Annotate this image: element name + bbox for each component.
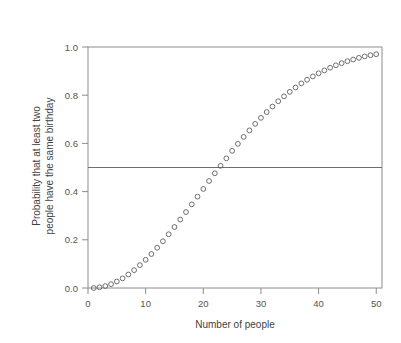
y-axis-tick-labels: 0.00.20.40.60.81.0 xyxy=(65,42,78,294)
data-point-marker xyxy=(299,81,304,86)
data-point-markers xyxy=(91,52,378,291)
data-point-marker xyxy=(178,217,183,222)
data-point-marker xyxy=(339,61,344,66)
x-tick-label: 10 xyxy=(140,298,151,309)
x-axis-ticks xyxy=(88,288,376,294)
data-point-marker xyxy=(207,179,212,184)
x-axis-tick-labels: 01020304050 xyxy=(85,298,381,309)
data-point-marker xyxy=(259,115,264,120)
data-point-marker xyxy=(357,55,362,60)
birthday-problem-chart: 01020304050 0.00.20.40.60.81.0 Number of… xyxy=(0,0,401,343)
data-point-marker xyxy=(120,276,125,281)
data-point-marker xyxy=(137,263,142,268)
data-point-marker xyxy=(172,225,177,230)
data-point-marker xyxy=(212,171,217,176)
data-point-marker xyxy=(132,268,137,273)
y-axis-title: Probability that at least two people hav… xyxy=(31,98,55,235)
data-point-marker xyxy=(224,156,229,161)
data-point-marker xyxy=(155,245,160,250)
data-point-marker xyxy=(328,65,333,70)
x-tick-label: 30 xyxy=(256,298,267,309)
data-point-marker xyxy=(166,232,171,237)
y-tick-label: 0.4 xyxy=(65,186,78,197)
data-point-marker xyxy=(114,279,119,284)
y-tick-label: 0.2 xyxy=(65,234,78,245)
data-point-marker xyxy=(351,57,356,62)
y-tick-label: 1.0 xyxy=(65,42,78,53)
data-point-marker xyxy=(276,99,281,104)
data-point-marker xyxy=(293,85,298,90)
data-point-marker xyxy=(362,54,367,59)
data-point-marker xyxy=(287,89,292,94)
data-point-marker xyxy=(270,104,275,109)
data-point-marker xyxy=(143,257,148,262)
data-point-marker xyxy=(230,148,235,153)
data-point-marker xyxy=(322,68,327,73)
x-tick-label: 20 xyxy=(198,298,209,309)
data-point-marker xyxy=(282,94,287,99)
data-point-marker xyxy=(368,53,373,58)
y-axis-ticks xyxy=(82,47,88,288)
y-tick-label: 0.6 xyxy=(65,138,78,149)
y-tick-label: 0.8 xyxy=(65,90,78,101)
data-point-marker xyxy=(345,59,350,64)
data-point-marker xyxy=(97,285,102,290)
data-point-marker xyxy=(195,194,200,199)
data-point-marker xyxy=(310,74,315,79)
data-point-marker xyxy=(126,272,131,277)
data-point-marker xyxy=(161,239,166,244)
data-point-marker xyxy=(241,134,246,139)
x-axis-title: Number of people xyxy=(195,319,275,330)
data-point-marker xyxy=(235,141,240,146)
data-point-marker xyxy=(264,110,269,115)
data-point-marker xyxy=(149,252,154,257)
x-tick-label: 40 xyxy=(313,298,324,309)
y-tick-label: 0.0 xyxy=(65,283,78,294)
chart-canvas: 01020304050 0.00.20.40.60.81.0 Number of… xyxy=(0,0,401,343)
data-point-marker xyxy=(316,71,321,76)
x-tick-label: 0 xyxy=(85,298,90,309)
data-point-marker xyxy=(305,77,310,82)
data-point-marker xyxy=(247,128,252,133)
data-point-marker xyxy=(333,63,338,68)
data-point-marker xyxy=(253,121,258,126)
data-point-marker xyxy=(109,282,114,287)
data-point-marker xyxy=(189,202,194,207)
data-point-marker xyxy=(184,210,189,215)
data-point-marker xyxy=(374,52,379,57)
y-axis-title-line-2: people have the same birthday xyxy=(44,98,55,235)
data-point-marker xyxy=(201,187,206,192)
y-axis-title-line-1: Probability that at least two xyxy=(31,106,42,226)
x-tick-label: 50 xyxy=(371,298,382,309)
